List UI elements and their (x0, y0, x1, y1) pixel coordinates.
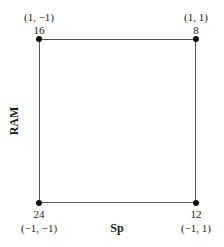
corner-bottom-right-coords: (−1, 1) (181, 222, 211, 234)
corner-top-left-coords: (1, −1) (24, 11, 54, 23)
corner-bottom-right-point (193, 200, 199, 206)
corner-bottom-left-value: 24 (34, 208, 45, 220)
corner-top-left-point (36, 36, 42, 42)
design-square-diagram: (1, −1) 16 (1, 1) 8 24 (−1, −1) 12 (−1, … (0, 0, 224, 247)
corner-top-right-value: 8 (193, 24, 199, 36)
corner-top-left-value: 16 (34, 24, 45, 36)
y-axis-label: RAM (8, 107, 20, 136)
corner-bottom-left-point (36, 200, 42, 206)
corner-bottom-left-coords: (−1, −1) (21, 222, 57, 234)
corner-top-right-point (193, 36, 199, 42)
design-square (39, 39, 196, 203)
x-axis-label: Sp (110, 222, 123, 234)
corner-bottom-right-value: 12 (191, 208, 202, 220)
corner-top-right-coords: (1, 1) (184, 11, 208, 23)
